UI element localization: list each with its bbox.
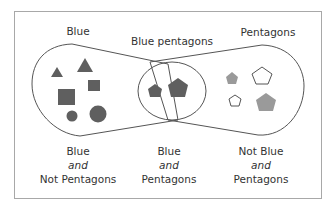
small-triangle-icon bbox=[51, 67, 63, 77]
large-triangle-icon bbox=[77, 58, 93, 72]
small-square-icon bbox=[88, 80, 100, 91]
label-blue: Blue bbox=[66, 25, 89, 37]
caption-right-line3: Pentagons bbox=[234, 173, 289, 185]
caption-left-line2: and bbox=[68, 159, 88, 171]
label-pentagons: Pentagons bbox=[241, 26, 296, 38]
venn-diagram: Blue Blue pentagons Pentagons Blue and N… bbox=[0, 0, 336, 214]
large-circle-icon bbox=[90, 106, 107, 123]
caption-right-line1: Not Blue bbox=[239, 145, 284, 157]
large-square-icon bbox=[58, 89, 75, 105]
caption-left-line3: Not Pentagons bbox=[40, 173, 117, 185]
small-outline-pentagon-icon bbox=[229, 95, 241, 106]
caption-left-line1: Blue bbox=[66, 145, 89, 157]
caption-middle-line2: and bbox=[159, 159, 179, 171]
caption-right-line2: and bbox=[251, 159, 271, 171]
small-gray-pentagon-icon bbox=[226, 72, 238, 84]
caption-middle-line3: Pentagons bbox=[142, 173, 197, 185]
large-gray-pentagon-icon bbox=[256, 93, 276, 111]
large-outline-pentagon-icon bbox=[252, 67, 272, 84]
small-circle-icon bbox=[67, 111, 78, 122]
caption-middle-line1: Blue bbox=[157, 145, 180, 157]
label-blue-pentagons: Blue pentagons bbox=[131, 35, 213, 47]
small-dark-pentagon-icon bbox=[148, 84, 162, 97]
